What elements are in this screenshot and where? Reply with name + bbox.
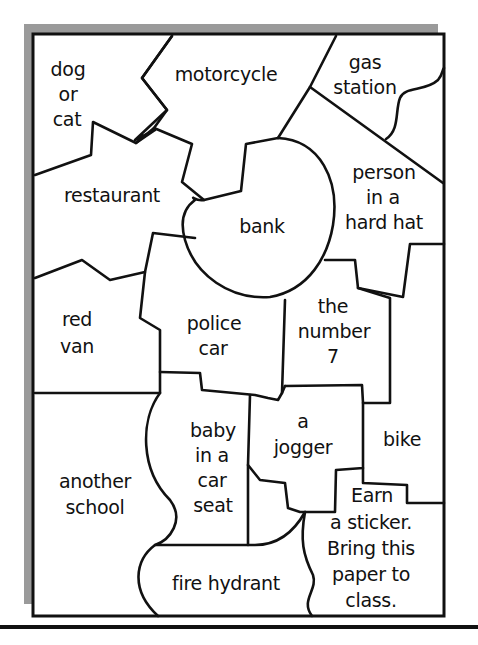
label-station: station — [333, 76, 396, 98]
label-school: school — [65, 496, 124, 518]
label-jogger: jogger — [273, 436, 333, 458]
label-bring-this: Bring this — [327, 537, 415, 559]
label-car: car — [198, 337, 227, 359]
label-7: 7 — [327, 345, 339, 367]
bottom-rule — [0, 625, 478, 629]
label-earn: Earn — [351, 484, 393, 506]
label-baby: baby — [190, 419, 236, 441]
label-hard-hat: hard hat — [345, 211, 423, 233]
label-another: another — [59, 470, 132, 492]
label-seat: seat — [193, 494, 232, 516]
label-or: or — [59, 83, 78, 105]
label-restaurant: restaurant — [64, 184, 160, 206]
label-the: the — [318, 295, 348, 317]
label-red: red — [62, 308, 92, 330]
label-motorcycle: motorcycle — [175, 63, 278, 85]
label-cat: cat — [53, 108, 82, 130]
label-van: van — [60, 335, 94, 357]
label-class: class. — [345, 589, 396, 611]
label-gas: gas — [349, 51, 382, 73]
label-a-sticker: a sticker. — [330, 511, 412, 533]
label-bike: bike — [383, 428, 421, 450]
label-dog: dog — [51, 58, 86, 80]
label-number: number — [298, 320, 371, 342]
label-in-a: in a — [366, 186, 400, 208]
label-bank: bank — [239, 215, 285, 237]
label-car: car — [197, 469, 226, 491]
label-a: a — [297, 410, 308, 432]
worksheet-map: dog or cat motorcycle gas station restau… — [0, 0, 478, 645]
label-person: person — [352, 161, 415, 183]
label-paper-to: paper to — [332, 563, 410, 585]
label-police: police — [187, 312, 242, 334]
label-fire-hydrant: fire hydrant — [172, 572, 280, 594]
label-in-a: in a — [195, 444, 229, 466]
